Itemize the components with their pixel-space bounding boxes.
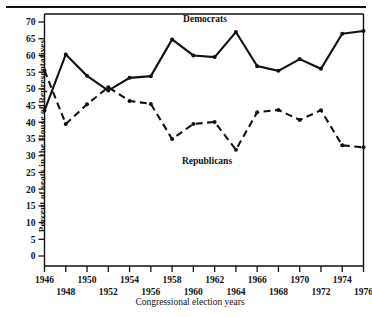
- axis-lines: [45, 14, 364, 266]
- data-point-democrats: [128, 76, 132, 80]
- data-point-republicans: [276, 108, 280, 112]
- data-point-republicans: [191, 122, 195, 126]
- data-series-group: [43, 29, 366, 152]
- series-line-republicans: [45, 70, 364, 149]
- data-point-democrats: [43, 109, 47, 113]
- data-point-democrats: [362, 29, 366, 33]
- x-tick-label: 1962: [205, 275, 224, 285]
- data-point-democrats: [191, 53, 195, 57]
- plot-border: [45, 14, 364, 266]
- data-point-democrats: [213, 55, 217, 59]
- y-tick-label: 30: [26, 151, 36, 161]
- y-tick-label: 70: [26, 17, 36, 27]
- y-tick-label: 0: [31, 251, 36, 261]
- y-tick-label: 25: [26, 168, 36, 178]
- data-point-republicans: [362, 145, 366, 149]
- data-point-republicans: [213, 120, 217, 124]
- y-tick-label: 60: [26, 51, 36, 61]
- x-tick-label: 1948: [56, 287, 75, 297]
- x-tick-label: 1974: [333, 275, 352, 285]
- figure-container: Percent of seats in the House of Represe…: [0, 0, 372, 317]
- y-tick-label: 40: [26, 118, 36, 128]
- data-point-republicans: [85, 102, 89, 106]
- democrats-annotation: Democrats: [183, 14, 227, 24]
- x-tick-label: 1968: [269, 287, 288, 297]
- y-tick-label: 50: [26, 84, 36, 94]
- line-chart: 0510152025303540455055606570 19461948195…: [0, 0, 372, 317]
- data-point-republicans: [43, 68, 47, 72]
- x-tick-label: 1958: [163, 275, 182, 285]
- data-point-republicans: [149, 102, 153, 106]
- data-point-republicans: [106, 85, 110, 89]
- data-point-republicans: [319, 108, 323, 112]
- x-tick-label: 1954: [120, 275, 139, 285]
- data-point-democrats: [64, 52, 68, 56]
- x-tick-label: 1970: [290, 275, 309, 285]
- data-point-democrats: [85, 74, 89, 78]
- data-point-republicans: [340, 143, 344, 147]
- data-point-democrats: [276, 69, 280, 73]
- y-tick-label: 5: [31, 235, 36, 245]
- x-tick-label: 1964: [226, 287, 245, 297]
- x-tick-label: 1966: [248, 275, 267, 285]
- y-tick-label: 10: [26, 218, 36, 228]
- data-point-republicans: [298, 118, 302, 122]
- y-tick-label: 15: [26, 201, 36, 211]
- x-tick-label: 1952: [99, 287, 118, 297]
- data-point-democrats: [298, 57, 302, 61]
- data-point-democrats: [170, 37, 174, 41]
- data-point-democrats: [340, 32, 344, 36]
- data-point-democrats: [255, 64, 259, 68]
- x-tick-label: 1956: [141, 287, 160, 297]
- plot-frame: [45, 14, 364, 266]
- data-point-republicans: [170, 137, 174, 141]
- republicans-annotation: Republicans: [182, 156, 232, 166]
- x-tick-label: 1972: [311, 287, 330, 297]
- x-tick-label: 1950: [78, 275, 97, 285]
- series-annotations: DemocratsRepublicans: [182, 14, 232, 166]
- x-axis-ticks: 1946194819501952195419561958196019621964…: [35, 266, 372, 297]
- data-point-democrats: [319, 67, 323, 71]
- x-tick-label: 1946: [35, 275, 54, 285]
- data-point-democrats: [149, 74, 153, 78]
- data-point-democrats: [234, 30, 238, 34]
- y-tick-label: 55: [26, 68, 36, 78]
- y-tick-label: 35: [26, 134, 36, 144]
- y-tick-label: 45: [26, 101, 36, 111]
- data-point-republicans: [234, 148, 238, 152]
- data-point-republicans: [64, 122, 68, 126]
- data-point-republicans: [128, 99, 132, 103]
- y-tick-label: 65: [26, 34, 36, 44]
- x-tick-label: 1976: [354, 287, 372, 297]
- data-point-republicans: [255, 110, 259, 114]
- y-tick-label: 20: [26, 185, 36, 195]
- y-axis-ticks: 0510152025303540455055606570: [26, 17, 45, 261]
- x-tick-label: 1960: [184, 287, 203, 297]
